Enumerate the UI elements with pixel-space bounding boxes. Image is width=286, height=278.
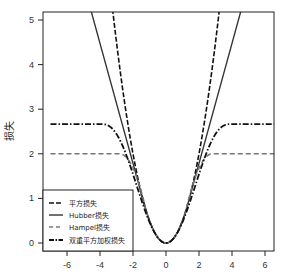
legend: 平方损失 Hubber损失 Hampel损失 双重平方加权损失 xyxy=(43,190,133,251)
y-tick-label: 2 xyxy=(29,149,34,159)
legend-label: 双重平方加权损失 xyxy=(69,236,125,245)
y-axis-title: 损失 xyxy=(3,121,15,141)
x-tick-label: 6 xyxy=(262,260,267,270)
legend-label: Hubber损失 xyxy=(69,211,109,220)
x-tick-label: -2 xyxy=(129,260,137,270)
x-tick-label: 2 xyxy=(196,260,201,270)
x-tick-label: -6 xyxy=(63,260,71,270)
y-tick-label: 0 xyxy=(29,238,34,248)
x-axis: -6-4-20246 xyxy=(63,251,268,270)
x-tick-label: -4 xyxy=(96,260,104,270)
y-axis: 012345 xyxy=(29,15,43,248)
y-tick-label: 1 xyxy=(29,193,34,203)
x-tick-label: 4 xyxy=(229,260,234,270)
legend-label: Hampel损失 xyxy=(69,223,110,232)
loss-function-chart: 012345 -6-4-20246 损失 平方损失 Hubber损失 Hampe… xyxy=(0,0,286,278)
legend-label: 平方损失 xyxy=(69,199,97,208)
y-tick-label: 5 xyxy=(29,15,34,25)
y-tick-label: 3 xyxy=(29,104,34,114)
y-tick-label: 4 xyxy=(29,60,34,70)
x-tick-label: 0 xyxy=(163,260,168,270)
